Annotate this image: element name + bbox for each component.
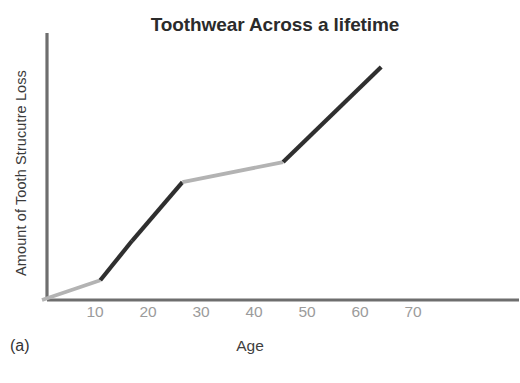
- figure-panel: Toothwear Across a lifetime Amount of To…: [0, 0, 520, 383]
- x-tick-label-40: 40: [234, 303, 274, 321]
- line-segment-late-life-rapid-wear: [283, 67, 381, 162]
- x-tick-label-30: 30: [181, 303, 221, 321]
- x-tick-label-20: 20: [128, 303, 168, 321]
- data-line-series: [42, 67, 381, 300]
- panel-label: (a): [10, 337, 30, 355]
- x-tick-label-70: 70: [393, 303, 433, 321]
- plot-area: [0, 0, 520, 383]
- x-tick-label-50: 50: [287, 303, 327, 321]
- line-segment-midlife-plateau: [182, 162, 283, 182]
- x-tick-label-60: 60: [340, 303, 380, 321]
- line-segment-young-adult-rapid-wear: [132, 182, 182, 241]
- line-segment-adolescent-wear: [100, 241, 132, 280]
- line-segment-childhood-slow-wear: [42, 280, 100, 300]
- x-tick-label-10: 10: [75, 303, 115, 321]
- x-axis-label: Age: [190, 337, 310, 355]
